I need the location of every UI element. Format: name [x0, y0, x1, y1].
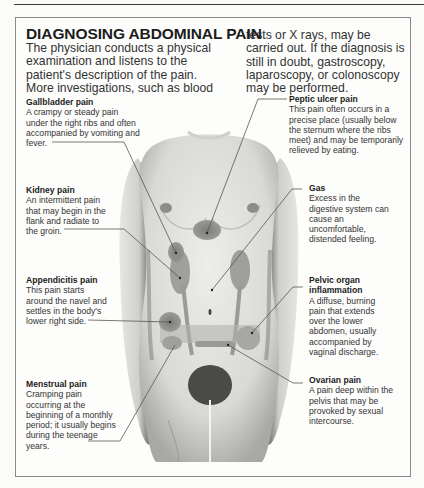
- label-appendicitis: Appendicitis pain This pain starts aroun…: [26, 275, 112, 326]
- label-body: A crampy or steady pain under the right …: [26, 107, 140, 148]
- label-pelvic-inflammation: Pelvic organ inflammation A diffuse, bur…: [309, 275, 385, 357]
- pelvic-zone: [236, 326, 260, 350]
- label-heading: Menstrual pain: [26, 379, 116, 389]
- gas-zone: [230, 250, 250, 290]
- label-heading: Kidney pain: [26, 185, 108, 195]
- menstrual-zone: [162, 336, 182, 350]
- label-heading: Pelvic organ inflammation: [309, 275, 385, 296]
- peptic-zone: [193, 220, 221, 240]
- ovarian-band: [195, 341, 233, 347]
- label-heading: Ovarian pain: [309, 375, 399, 385]
- label-menstrual: Menstrual pain Cramping pain occurring a…: [26, 379, 116, 451]
- label-body: Cramping pain occurring at the beginning…: [26, 389, 116, 450]
- label-kidney: Kidney pain An intermittent pain that ma…: [26, 185, 108, 236]
- label-ovarian: Ovarian pain A pain deep within the pelv…: [309, 375, 399, 426]
- label-body: This pain often occurs in a precise plac…: [289, 104, 403, 155]
- label-heading: Peptic ulcer pain: [289, 94, 409, 104]
- label-peptic-ulcer: Peptic ulcer pain This pain often occurs…: [289, 94, 409, 156]
- label-body: This pain starts around the navel and se…: [26, 285, 107, 326]
- label-gallbladder: Gallbladder pain A crampy or steady pain…: [26, 97, 141, 148]
- label-body: A diffuse, burning pain that extends ove…: [309, 296, 378, 357]
- label-heading: Appendicitis pain: [26, 275, 112, 285]
- label-body: An intermittent pain that may begin in t…: [26, 195, 106, 236]
- label-body: A pain deep within the pelvis that may b…: [309, 385, 393, 426]
- intro-text-right: tests or X rays, may be carried out. If …: [246, 29, 411, 95]
- label-heading: Gallbladder pain: [26, 97, 141, 107]
- label-body: Excess in the digestive system can cause…: [309, 193, 389, 244]
- label-heading: Gas: [309, 183, 393, 193]
- intro-text-left: The physician conducts a physical examin…: [26, 42, 221, 95]
- label-gas: Gas Excess in the digestive system can c…: [309, 183, 393, 245]
